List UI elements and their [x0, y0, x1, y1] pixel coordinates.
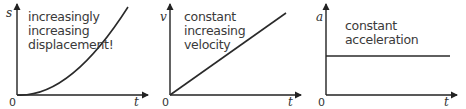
caption-line: constant	[184, 10, 245, 24]
y-axis-label: a	[316, 10, 323, 24]
caption-line: velocity	[184, 38, 245, 52]
graph-caption: increasingly increasing displacement!	[28, 10, 113, 52]
graph-caption: constant acceleration	[345, 19, 418, 47]
graph-caption: constant increasing velocity	[184, 10, 245, 52]
caption-line: increasing	[184, 24, 245, 38]
x-axis-label: t	[288, 95, 293, 109]
y-axis-label: s	[6, 6, 12, 20]
graph-velocity-time: v t 0 constant increasing velocity	[155, 0, 310, 109]
origin-label: 0	[9, 96, 16, 109]
graph-displacement-time: s t 0 increasingly increasing displaceme…	[0, 0, 155, 109]
caption-line: increasing	[28, 24, 113, 38]
x-axis-label: t	[444, 95, 449, 109]
graph-acceleration-time: a t 0 constant acceleration	[310, 0, 466, 109]
x-axis-label: t	[134, 95, 139, 109]
y-axis-label: v	[160, 10, 167, 24]
caption-line: increasingly	[28, 10, 113, 24]
caption-line: displacement!	[28, 38, 113, 52]
origin-label: 0	[318, 96, 325, 109]
acceleration-time-plot	[310, 0, 466, 109]
origin-label: 0	[162, 96, 169, 109]
caption-line: constant	[345, 19, 418, 33]
caption-line: acceleration	[345, 33, 418, 47]
